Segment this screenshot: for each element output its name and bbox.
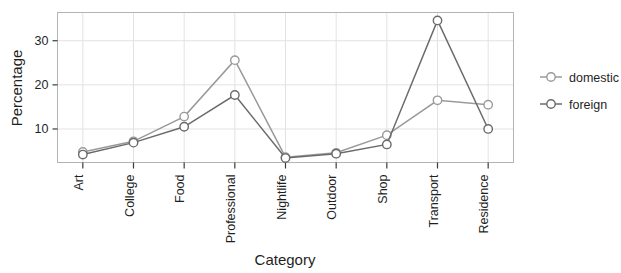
x-axis-tick-label: Residence bbox=[477, 174, 491, 233]
legend-label: domestic bbox=[569, 71, 619, 85]
data-point-marker bbox=[180, 112, 188, 120]
data-point-marker bbox=[433, 16, 441, 24]
x-axis-tick-label: Outdoor bbox=[325, 175, 339, 220]
data-point-marker bbox=[281, 154, 289, 162]
y-axis-title: Percentage bbox=[8, 50, 25, 127]
x-axis-tick-label: Food bbox=[173, 174, 187, 203]
chart-page: ArtCollegeFoodProfessionalNightlifeOutdo… bbox=[0, 0, 621, 273]
data-point-marker bbox=[79, 150, 87, 158]
x-axis-tick-label: Art bbox=[72, 174, 86, 191]
x-axis-tick-label: College bbox=[123, 174, 137, 216]
x-axis-tick-label: Professional bbox=[224, 174, 238, 243]
data-point-marker bbox=[433, 96, 441, 104]
data-point-marker bbox=[383, 140, 391, 148]
y-axis-tick-label: 20 bbox=[35, 78, 49, 92]
legend-marker-icon bbox=[547, 73, 555, 81]
legend-label: foreign bbox=[569, 98, 607, 112]
x-axis-tick-label: Transport bbox=[427, 174, 441, 228]
data-point-marker bbox=[484, 125, 492, 133]
data-point-marker bbox=[231, 91, 239, 99]
legend-marker-icon bbox=[547, 100, 555, 108]
y-axis-tick-label: 30 bbox=[35, 34, 49, 48]
data-point-marker bbox=[129, 138, 137, 146]
data-point-marker bbox=[332, 149, 340, 157]
y-axis-tick-label: 10 bbox=[35, 122, 49, 136]
x-axis-tick-label: Nightlife bbox=[275, 174, 289, 219]
line-chart: ArtCollegeFoodProfessionalNightlifeOutdo… bbox=[0, 0, 621, 273]
x-axis-tick-label: Shop bbox=[376, 174, 390, 203]
data-point-marker bbox=[231, 56, 239, 64]
data-point-marker bbox=[180, 123, 188, 131]
data-point-marker bbox=[484, 101, 492, 109]
x-axis-title: Category bbox=[255, 251, 316, 268]
